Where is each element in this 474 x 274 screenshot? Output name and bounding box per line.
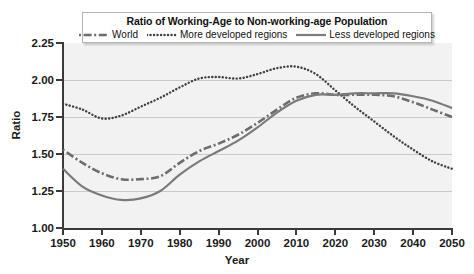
legend-label: World [112, 29, 138, 40]
legend-item-more-developed-regions[interactable]: More developed regions [147, 29, 287, 40]
chart-container: 1.001.251.501.752.002.25 195019601970198… [0, 0, 474, 274]
legend-swatch-solid [296, 31, 326, 39]
legend-item-world[interactable]: World [79, 29, 138, 40]
legend: Ratio of Working-Age to Non-working-age … [82, 12, 432, 43]
legend-swatch-dotted [147, 31, 177, 39]
legend-label: Less developed regions [329, 29, 435, 40]
legend-swatch-dash-dot [79, 31, 109, 39]
series-line-less-developed-regions [63, 93, 452, 200]
legend-entries: WorldMore developed regionsLess develope… [83, 29, 431, 40]
chart-title: Ratio of Working-Age to Non-working-age … [83, 15, 431, 27]
series-line-more-developed-regions [63, 66, 452, 168]
legend-item-less-developed-regions[interactable]: Less developed regions [296, 29, 435, 40]
legend-label: More developed regions [180, 29, 287, 40]
